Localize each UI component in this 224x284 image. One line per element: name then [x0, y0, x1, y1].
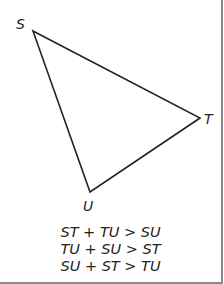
triangle-stu	[33, 31, 200, 192]
vertex-label-u: U	[83, 199, 93, 213]
vertex-label-t: T	[204, 112, 213, 126]
inequality-2: TU + SU > ST	[0, 242, 221, 257]
inequality-1: ST + TU > SU	[0, 225, 221, 240]
figure-frame: S T U ST + TU > SU TU + SU > ST SU + ST …	[0, 0, 223, 284]
inequality-3: SU + ST > TU	[0, 259, 221, 274]
vertex-label-s: S	[16, 17, 25, 31]
